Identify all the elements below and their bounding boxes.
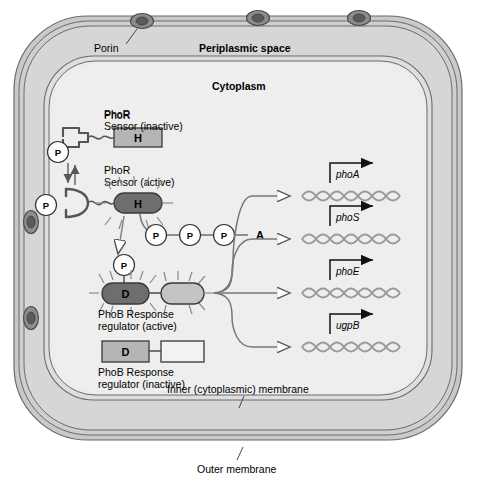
phob-inactive-caption-1: PhoB Response bbox=[98, 366, 174, 378]
outer-membrane-label: Outer membrane bbox=[197, 463, 277, 475]
phosphate-receptor-upper: P bbox=[48, 142, 69, 163]
sensor-active-h-node: H bbox=[114, 193, 162, 213]
phob-active-d-letter: D bbox=[122, 288, 130, 300]
gene-phoS-label: phoS bbox=[335, 212, 360, 223]
atp-phosphate-3-letter: P bbox=[221, 230, 228, 241]
phob-inactive-caption-2: regulator (inactive) bbox=[98, 378, 185, 390]
porin-top-right bbox=[348, 11, 371, 26]
sensor-active-h-letter: H bbox=[134, 198, 142, 210]
atp-phosphate-2-letter: P bbox=[187, 230, 194, 241]
phosphate-receptor-upper-letter: P bbox=[55, 147, 62, 158]
porin-left-upper bbox=[24, 211, 39, 234]
atp-phosphate-1-letter: P bbox=[153, 230, 160, 241]
cytoplasm-label: Cytoplasm bbox=[212, 80, 266, 92]
atp-phosphate-2: P bbox=[180, 225, 201, 246]
phor-active-label-2: Sensor (active) bbox=[104, 176, 175, 188]
gene-ugpB-label: ugpB bbox=[336, 320, 360, 331]
outer-membrane-leader-line bbox=[237, 447, 243, 460]
inner-membrane-label: Inner (cytoplasmic) membrane bbox=[167, 383, 309, 395]
phob-active-output-domain bbox=[161, 283, 204, 304]
porin-top-left bbox=[131, 14, 154, 29]
phosphate-receptor-lower-letter: P bbox=[43, 200, 50, 211]
phor-inactive-label-2: Sensor (inactive) bbox=[104, 120, 183, 132]
sensor-inactive-h-letter: H bbox=[134, 132, 142, 144]
porin-left-lower bbox=[24, 307, 39, 330]
phosphate-transfer-letter: P bbox=[121, 260, 128, 271]
phob-inactive-d-letter: D bbox=[122, 346, 130, 358]
phosphate-receptor-lower: P bbox=[36, 195, 57, 216]
phob-inactive-output-domain bbox=[161, 341, 204, 362]
cell-diagram: Porin Periplasmic space Cytoplasm Inner … bbox=[0, 0, 495, 483]
figure-canvas: Porin Periplasmic space Cytoplasm Inner … bbox=[0, 0, 495, 483]
gene-phoE-label: phoE bbox=[335, 266, 360, 277]
atp-phosphate-3: P bbox=[214, 225, 235, 246]
phor-active-label-1: PhoR bbox=[104, 164, 131, 176]
porin-label: Porin bbox=[94, 42, 119, 54]
phob-active-caption-2: regulator (active) bbox=[98, 320, 177, 332]
phob-active-caption-1: PhoB Response bbox=[98, 308, 174, 320]
gene-phoA-label: phoA bbox=[335, 169, 360, 180]
phor-inactive-label-1: PhoR bbox=[104, 108, 131, 120]
periplasmic-space-label: Periplasmic space bbox=[199, 42, 291, 54]
atp-phosphate-1: P bbox=[146, 225, 167, 246]
porin-top-middle bbox=[247, 11, 270, 26]
